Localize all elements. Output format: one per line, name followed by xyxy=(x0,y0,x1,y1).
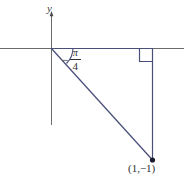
angle-fraction: π 4 xyxy=(70,48,81,72)
figure-canvas xyxy=(0,0,184,180)
right-angle-marker-icon xyxy=(140,49,153,62)
y-axis-label: y xyxy=(47,3,52,14)
angle-numerator-pi: π xyxy=(71,48,80,59)
angle-denominator: 4 xyxy=(71,60,81,72)
point-coordinate-label: (1,−1) xyxy=(128,163,155,174)
math-figure: y − π 4 (1,−1) xyxy=(0,0,184,180)
angle-label: − π 4 xyxy=(62,48,81,72)
angle-negative-sign: − xyxy=(62,54,70,67)
